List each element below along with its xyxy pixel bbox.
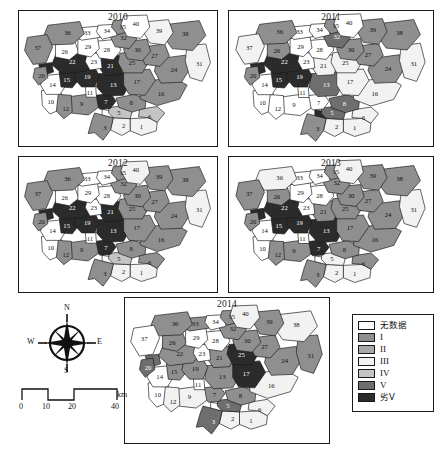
legend-label-worseV: 劣V [380,393,395,402]
region-label-35: 35 [228,313,235,320]
region-label-33: 33 [192,320,199,327]
map-panel-2014: 2014123567891011121314151617192021222324… [124,297,330,444]
region-label-25: 25 [238,351,245,358]
region-label-2: 2 [335,269,338,276]
region-label-5: 5 [117,255,120,262]
region-label-40: 40 [242,310,249,317]
region-label-31: 31 [196,60,203,67]
compass-west-label: W [27,337,35,346]
scale-tick-10: 10 [42,402,50,411]
region-2 [219,411,239,429]
figure-root: 2010123567891011121314151617192021222324… [0,0,448,452]
scale-tick-0: 0 [19,402,23,411]
legend-label-II: II [380,345,386,354]
region-label-38: 38 [293,321,300,328]
region-label-27: 27 [151,52,158,59]
region-label-28: 28 [212,337,219,344]
region-2 [111,118,131,136]
legend-label-V: V [380,381,387,390]
region-label-2: 2 [231,415,234,422]
region-label-22: 22 [176,350,183,357]
region-label-31: 31 [307,352,314,359]
region-label-2: 2 [122,122,125,129]
region-label-19: 19 [296,219,303,226]
region-label-13: 13 [110,227,117,234]
region-label-12: 12 [62,105,69,112]
region-label-38: 38 [396,175,403,182]
region-label-29: 29 [193,334,200,341]
map-panel-2012: 2012123567891011121314151617192021222324… [18,156,218,293]
region-label-39: 39 [156,27,163,34]
legend-swatch-III [358,357,375,366]
region-label-36: 36 [64,175,71,182]
region-label-31: 31 [196,206,203,213]
region-label-15: 15 [63,76,70,83]
region-label-29: 29 [85,189,92,196]
region-label-35: 35 [332,22,339,29]
region-label-10: 10 [259,245,266,252]
region-label-17: 17 [347,78,354,85]
region-label-34: 34 [212,318,219,325]
legend-swatch-I [358,333,375,342]
region-label-25: 25 [342,205,349,212]
region-label-12: 12 [62,251,69,258]
region-label-12: 12 [170,398,177,405]
region-label-10: 10 [259,99,266,106]
legend-swatch-worseV [358,393,375,402]
region-3 [88,113,113,140]
region-label-24: 24 [281,357,288,364]
region-label-13: 13 [219,373,226,380]
region-label-16: 16 [158,236,165,243]
region-label-13: 13 [323,227,330,234]
legend-label-nodata: 无数据 [380,321,407,330]
region-label-17: 17 [243,370,250,377]
region-label-29: 29 [297,43,304,50]
region-label-24: 24 [385,65,392,72]
region-label-38: 38 [182,176,189,183]
compass-south-label: S [64,366,68,375]
region-label-37: 37 [34,190,41,197]
choropleth-map-2013: 1235678910111213141516171920212223242526… [229,157,433,292]
region-label-35: 35 [119,169,126,176]
legend-item-IV: IV [358,367,427,379]
region-label-28: 28 [316,46,323,53]
region-label-26: 26 [273,47,280,54]
region-label-36: 36 [172,320,179,327]
region-label-40: 40 [346,165,353,172]
region-label-9: 9 [80,100,83,107]
region-label-40: 40 [132,20,139,27]
region-label-20: 20 [250,218,257,225]
choropleth-map-2010: 1235678910111213141516171920212223242526… [19,11,217,146]
legend-label-I: I [380,333,383,342]
region-label-37: 37 [246,44,253,51]
choropleth-map-2011: 1235678910111213141516171920212223242526… [229,11,433,146]
legend-item-II: II [358,343,427,355]
region-label-21: 21 [216,354,223,361]
region-label-33: 33 [84,29,91,36]
region-label-12: 12 [274,251,281,258]
legend-swatch-nodata [358,321,375,330]
region-label-14: 14 [49,81,56,88]
region-label-27: 27 [261,343,268,350]
region-label-10: 10 [154,391,161,398]
region-3 [88,259,113,286]
region-label-32: 32 [333,33,340,40]
region-label-17: 17 [133,78,140,85]
region-label-2: 2 [335,123,338,130]
choropleth-map-2012: 1235678910111213141516171920212223242526… [19,157,217,292]
region-label-1: 1 [249,417,252,424]
compass-north-label: N [64,303,70,312]
region-label-22: 22 [281,58,288,65]
region-label-15: 15 [275,76,282,83]
region-label-20: 20 [38,218,45,225]
region-label-33: 33 [84,175,91,182]
region-label-34: 34 [316,26,323,33]
region-label-26: 26 [273,193,280,200]
region-3 [301,114,327,142]
region-label-15: 15 [275,222,282,229]
region-label-16: 16 [268,382,275,389]
legend-swatch-V [358,381,375,390]
region-label-14: 14 [156,373,163,380]
map-panel-2013: 2013123567891011121314151617192021222324… [228,156,434,293]
region-label-40: 40 [346,19,353,26]
